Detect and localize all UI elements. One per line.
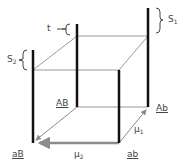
thin-edges: [33, 36, 148, 107]
S2-subscript: 2: [13, 58, 17, 65]
vertex-ab-label: ab: [127, 150, 138, 159]
S1-bracket-icon: [156, 8, 163, 33]
mu2-label: μ2: [74, 150, 84, 160]
vertex-aB-label: aB: [12, 150, 24, 159]
S2-label: S2: [7, 55, 17, 65]
top-left-diagonal: [33, 36, 77, 70]
S1-subscript: 1: [174, 18, 178, 25]
cube-svg: [0, 0, 189, 166]
vertex-Ab-label: Ab: [156, 104, 168, 113]
mu1-subscript: 1: [140, 128, 144, 135]
t-label: t: [47, 24, 51, 33]
top-right-diagonal: [119, 36, 148, 70]
S1-label: S1: [168, 15, 178, 25]
cube-diagram: S1 t S2 AB Ab aB ab μ1 μ2: [0, 0, 189, 166]
mu2-subscript: 2: [80, 153, 84, 160]
AB-to-aB-arrow: [36, 107, 77, 140]
t-bracket-icon: [62, 24, 70, 35]
mu1-label: μ1: [134, 125, 144, 135]
S2-bracket-icon: [19, 50, 27, 70]
vertex-AB-label: AB: [56, 99, 68, 108]
brackets: [19, 8, 163, 70]
